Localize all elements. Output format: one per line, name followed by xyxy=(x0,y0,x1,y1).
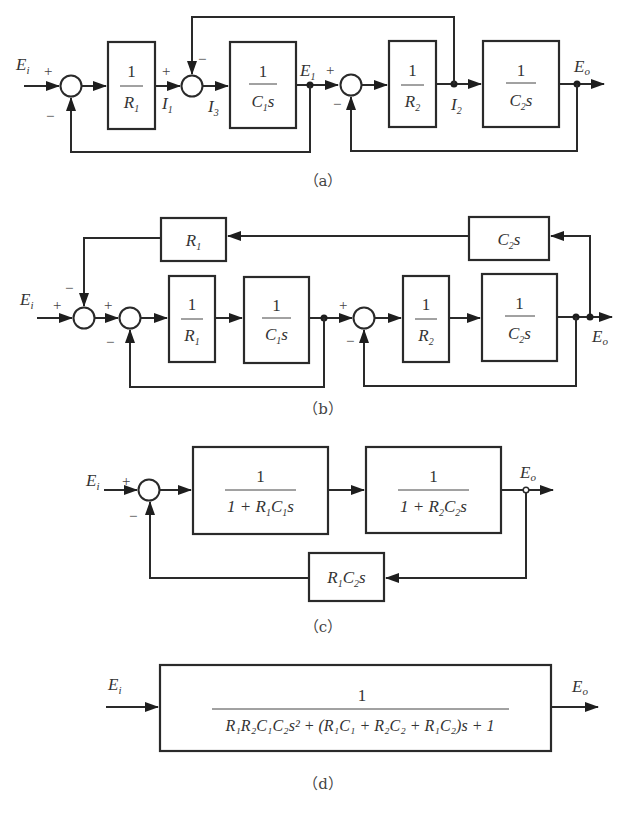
i2-label: I2 xyxy=(450,95,462,116)
summing-junction xyxy=(139,480,160,501)
plus-sign: + xyxy=(326,62,334,78)
plus-sign: + xyxy=(122,473,130,489)
subfigure-a: Ei + − 1 R1 + I1 − I3 1 C1s E1 + − 1 R2 … xyxy=(15,17,604,190)
block-numerator: 1 xyxy=(515,294,524,313)
minus-sign: − xyxy=(346,333,354,349)
plus-sign: + xyxy=(162,63,170,79)
block-1-over-C1s xyxy=(230,42,296,128)
subfigure-d: Ei 1 R₁R₂C₁C₂s² + (R₁C₁ + R₂C₂ + R₁C₂)s … xyxy=(106,665,598,793)
minus-sign: − xyxy=(129,508,137,524)
subfigure-b: R1 C2s Ei + − + − 1 R1 1 C1s + − 1 xyxy=(19,217,612,418)
i1-label: I1 xyxy=(161,94,173,115)
block-numerator: 1 xyxy=(358,686,367,705)
block-numerator: 1 xyxy=(422,295,431,314)
minus-sign: − xyxy=(333,96,341,112)
block-numerator: 1 xyxy=(517,61,526,80)
block-diagram-figure: Ei + − 1 R1 + I1 − I3 1 C1s E1 + − 1 R2 … xyxy=(0,0,627,816)
caption-a: （a） xyxy=(304,172,343,190)
block-numerator: 1 xyxy=(272,296,281,315)
subfigure-c: Ei + − 1 1 + R1C1s 1 1 + R2C2s Eo R1C2s … xyxy=(85,447,553,636)
input-label: Ei xyxy=(19,290,33,311)
block-numerator: 1 xyxy=(127,62,136,81)
block-numerator: 1 xyxy=(259,62,268,81)
block-1-over-C2s xyxy=(483,41,559,127)
plus-sign: + xyxy=(339,297,347,313)
minus-sign: − xyxy=(46,108,54,124)
input-label: Ei xyxy=(15,55,29,76)
summing-junction-1 xyxy=(61,76,82,97)
block-numerator: 1 xyxy=(188,295,197,314)
output-label: Eo xyxy=(571,677,588,697)
output-label: Eo xyxy=(519,463,536,483)
minus-sign: − xyxy=(65,280,73,296)
plus-sign: + xyxy=(53,297,61,313)
block-numerator: 1 xyxy=(408,61,417,80)
block-1-over-R2 xyxy=(389,41,436,127)
block-numerator: 1 xyxy=(429,467,438,486)
caption-b: （b） xyxy=(303,400,343,418)
block-numerator: 1 xyxy=(256,467,265,486)
branch-point xyxy=(523,487,529,493)
branch-point xyxy=(587,314,594,321)
output-label: Eo xyxy=(573,57,590,77)
summing-junction-2 xyxy=(120,308,141,329)
input-label: Ei xyxy=(85,471,99,492)
summing-junction-1 xyxy=(74,308,95,329)
minus-sign: − xyxy=(106,334,114,350)
caption-c: （c） xyxy=(304,618,342,636)
i3-label: I3 xyxy=(207,97,219,118)
summing-junction-2 xyxy=(182,76,203,97)
feedback-block-label: R1C2s xyxy=(326,568,366,589)
feedback-path-R1-to-sum1 xyxy=(84,238,161,306)
summing-junction-3 xyxy=(341,75,362,96)
caption-d: （d） xyxy=(303,775,343,793)
block-denominator: R₁R₂C₁C₂s² + (R₁C₁ + R₂C₂ + R₁C₂)s + 1 xyxy=(225,717,495,735)
block-1-over-C1s xyxy=(244,277,309,363)
output-label: Eo xyxy=(591,327,608,347)
summing-junction-3 xyxy=(354,308,375,329)
feedback-block-C2s xyxy=(469,217,549,260)
input-label: Ei xyxy=(107,675,121,696)
plus-sign: + xyxy=(104,297,112,313)
block-1-over-C2s xyxy=(482,274,557,361)
e1-label: E1 xyxy=(299,61,315,82)
closed-loop-transfer-function-block xyxy=(160,665,551,751)
plus-sign: + xyxy=(44,63,52,79)
minus-sign: − xyxy=(198,51,206,67)
